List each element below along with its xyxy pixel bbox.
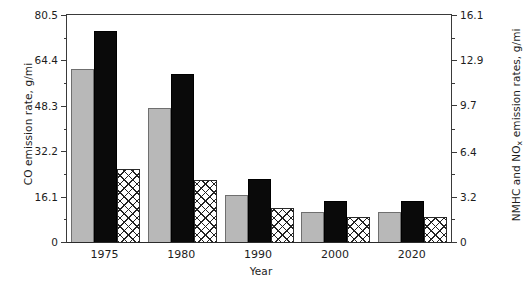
y-axis-right-tick — [451, 152, 457, 153]
y-axis-right-tick — [451, 60, 457, 61]
y-axis-left-tick-label: 48.3 — [35, 100, 58, 112]
bar-1975-black — [94, 31, 117, 242]
y-axis-left-tick-label: 80.5 — [35, 9, 58, 21]
bar-1990-crosshatch — [271, 208, 294, 242]
y-axis-left-minor-tick — [64, 38, 68, 39]
y-axis-left-minor-tick — [64, 174, 68, 175]
y-axis-right-title-prefix: NMHC and NO — [510, 145, 522, 221]
y-axis-right-title-suffix: emission rates, g/mi — [510, 29, 522, 141]
y-axis-left-tick-label: 64.4 — [35, 54, 58, 66]
bar-1980-crosshatch — [194, 180, 217, 242]
bar-1980-black — [171, 74, 194, 242]
y-axis-left-tick — [61, 15, 67, 16]
y-axis-right-title: NMHC and NOx emission rates, g/mi — [510, 5, 524, 245]
y-axis-left-tick — [61, 60, 67, 61]
x-axis-tick-label: 1975 — [91, 248, 119, 261]
y-axis-right-minor-tick — [451, 174, 455, 175]
bar-1990-gray — [225, 195, 248, 242]
y-axis-right-minor-tick — [451, 83, 455, 84]
y-axis-right-tick-label: 16.1 — [460, 9, 483, 21]
y-axis-right-minor-tick — [451, 219, 455, 220]
x-axis-tick-label: 2000 — [321, 248, 349, 261]
y-axis-right-tick — [451, 197, 457, 198]
y-axis-right-tick-label: 3.2 — [460, 191, 477, 203]
y-axis-right-minor-tick — [451, 129, 455, 130]
y-axis-right-minor-tick — [451, 38, 455, 39]
bar-2020-black — [401, 201, 424, 242]
y-axis-left-minor-tick — [64, 219, 68, 220]
x-axis-title: Year — [0, 265, 522, 277]
y-axis-left-tick-label: 0 — [51, 236, 58, 248]
y-axis-left-tick — [61, 106, 67, 107]
x-axis-tick-label: 1980 — [167, 248, 195, 261]
bar-1990-black — [248, 179, 271, 242]
y-axis-right-tick — [451, 242, 457, 243]
y-axis-right-title-subscript: x — [515, 141, 524, 146]
bar-1975-crosshatch — [117, 169, 140, 242]
bar-2000-crosshatch — [347, 217, 370, 242]
y-axis-left-tick — [61, 197, 67, 198]
bar-1975-gray — [71, 69, 94, 242]
x-axis-tick-label: 2020 — [398, 248, 426, 261]
y-axis-right-tick — [451, 15, 457, 16]
y-axis-left-tick — [61, 151, 67, 152]
y-axis-left-tick — [61, 242, 67, 243]
bar-2000-gray — [301, 212, 324, 242]
y-axis-left-tick-label: 32.2 — [35, 145, 58, 157]
bar-2000-black — [324, 201, 347, 242]
y-axis-left-minor-tick — [64, 83, 68, 84]
bar-1980-gray — [148, 108, 171, 242]
y-axis-right-tick — [451, 105, 457, 106]
y-axis-right-tick-label: 12.9 — [460, 54, 483, 66]
y-axis-left-tick-label: 16.1 — [35, 191, 58, 203]
bar-2020-gray — [378, 212, 401, 242]
y-axis-left-title: CO emission rate, g/mi — [22, 24, 34, 224]
y-axis-right-tick-label: 9.7 — [460, 99, 477, 111]
bar-2020-crosshatch — [424, 217, 447, 242]
y-axis-left-minor-tick — [64, 129, 68, 130]
plot-area: 016.132.248.364.480.5 03.26.49.712.916.1 — [66, 14, 452, 243]
y-axis-right-tick-label: 6.4 — [460, 146, 477, 158]
x-axis-tick-label: 1990 — [244, 248, 272, 261]
y-axis-right-tick-label: 0 — [460, 236, 467, 248]
